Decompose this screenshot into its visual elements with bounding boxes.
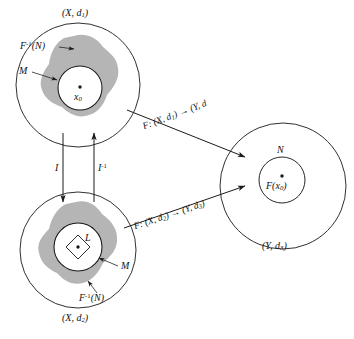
top-point-label: x0 <box>74 92 82 103</box>
identity-up-label: I-1 <box>98 163 107 173</box>
target-point-label: F(x0) <box>266 181 287 192</box>
bottom-space-label: (X, d2) <box>62 313 88 324</box>
target-center-point <box>280 174 283 177</box>
identity-down-label: I <box>55 163 58 173</box>
top-preimage-label: F-1(N) <box>20 41 45 51</box>
top-center-point <box>78 85 81 88</box>
top-space-label: (X, d1) <box>62 8 88 19</box>
diagram-canvas <box>0 0 354 339</box>
top-map-arrow <box>127 110 245 157</box>
bottom-space-group <box>20 192 136 308</box>
top-m-label: M <box>19 66 27 76</box>
target-n-label: N <box>277 145 284 155</box>
target-space-label: (Y, d3) <box>262 241 287 252</box>
bottom-preimage-label: F-1(N) <box>79 293 104 303</box>
bottom-m-label: M <box>121 261 129 271</box>
bottom-center-point <box>76 245 79 248</box>
metric-space-diagram: (X, d1) F-1(N) M x0 (X, d2) F-1(N) M L (… <box>0 0 354 339</box>
bottom-diamond-label: L <box>85 233 91 243</box>
